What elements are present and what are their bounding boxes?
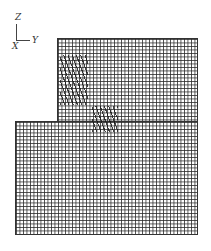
y-axis-line — [16, 40, 30, 41]
hatched-region-middle — [92, 106, 118, 132]
z-axis-label: Z — [15, 13, 21, 22]
x-axis-label: X — [12, 42, 18, 51]
y-axis-label: Y — [32, 36, 38, 45]
z-axis-line — [16, 24, 17, 41]
hatched-region-upper — [60, 55, 88, 105]
mesh-lower-block — [15, 121, 198, 235]
